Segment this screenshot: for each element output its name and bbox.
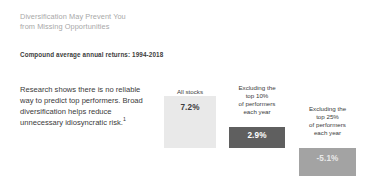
bar-caption-line: Excluding the [238, 84, 275, 91]
slide-canvas: Diversification May Prevent You from Mis… [0, 0, 376, 193]
bar-value-all-stocks: 7.2% [180, 103, 199, 112]
bar-caption-line: top 10% [246, 92, 269, 99]
bar-caption-line: Excluding the [309, 105, 346, 112]
bar-value-excluding-top-25: -5.1% [317, 154, 339, 163]
bar-caption-all-stocks: All stocks [177, 88, 203, 96]
bar-rect-all-stocks: 7.2% [164, 96, 216, 148]
bar-rect-excluding-top-10: 2.9% [229, 127, 285, 148]
bar-caption-excluding-top-10: Excluding the top 10% of performers each… [238, 84, 275, 116]
bar-rect-excluding-top-25: -5.1% [299, 148, 356, 176]
bar-value-excluding-top-10: 2.9% [247, 131, 266, 140]
bar-caption-line: All stocks [177, 88, 203, 95]
bar-caption-line: of performers [309, 121, 346, 128]
bar-chart: All stocks 7.2% Excluding the top 10% of… [0, 0, 376, 193]
bar-caption-line: each year [243, 108, 270, 115]
bar-caption-line: top 25% [316, 113, 339, 120]
bar-caption-excluding-top-25: Excluding the top 25% of performers each… [309, 105, 346, 137]
bar-caption-line: each year [314, 129, 341, 136]
bar-caption-line: of performers [239, 100, 276, 107]
